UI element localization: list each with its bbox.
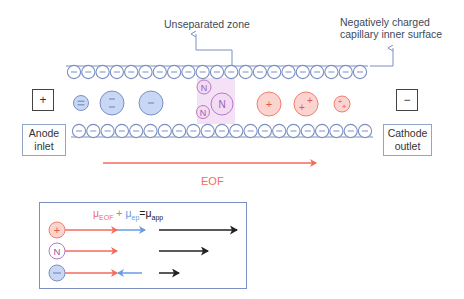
svg-text:+: + [342, 102, 347, 111]
anode-electrode: + [32, 89, 54, 111]
surface-label-line1: Negatively charged [340, 16, 442, 28]
anode-inlet-label: Anode inlet [22, 124, 66, 156]
cation-single: + [257, 92, 281, 116]
svg-text:+: + [54, 224, 60, 236]
svg-text:+: + [299, 102, 305, 113]
mu-eof-subscript: EOF [99, 214, 113, 221]
neutral-small-top: N [197, 80, 211, 94]
mobility-equation: μEOF + μep=μapp [93, 207, 163, 221]
cation-small-double: + + [334, 96, 350, 112]
anode-inlet-line2: inlet [26, 140, 62, 153]
svg-text:N: N [54, 246, 61, 257]
legend-anion-icon [49, 265, 65, 281]
svg-text:+: + [266, 98, 272, 110]
legend-cation-icon: + [49, 222, 65, 238]
cathode-symbol: − [403, 93, 410, 107]
svg-text:N: N [218, 99, 225, 110]
anode-symbol: + [39, 93, 46, 107]
svg-text:+: + [307, 95, 313, 106]
neutral-large: N [211, 93, 233, 115]
neutral-small-bottom: N [197, 106, 210, 119]
anion-double [74, 96, 89, 111]
anion-large-double [100, 91, 124, 115]
surface-callout [370, 48, 393, 66]
top-capillary-wall [66, 65, 368, 78]
mu-app-subscript: app [151, 214, 163, 221]
cation-double: + + [294, 92, 318, 116]
plus-sign: + [113, 207, 125, 219]
eof-label: EOF [201, 175, 224, 187]
cathode-outlet-line2: outlet [387, 140, 428, 153]
svg-text:N: N [201, 83, 208, 93]
bottom-capillary-wall [71, 124, 373, 137]
surface-label: Negatively charged capillary inner surfa… [340, 16, 442, 40]
anion-single [139, 91, 163, 115]
surface-label-line2: capillary inner surface [340, 28, 442, 40]
svg-text:N: N [200, 108, 207, 118]
legend-neutral-icon: N [49, 243, 65, 259]
unseparated-zone-label: Unseparated zone [164, 18, 250, 30]
anode-inlet-line1: Anode [26, 127, 62, 140]
cathode-outlet-line1: Cathode [387, 127, 428, 140]
cathode-outlet-label: Cathode outlet [383, 124, 432, 156]
unseparated-zone-callout [196, 34, 232, 66]
cathode-electrode: − [396, 89, 418, 111]
